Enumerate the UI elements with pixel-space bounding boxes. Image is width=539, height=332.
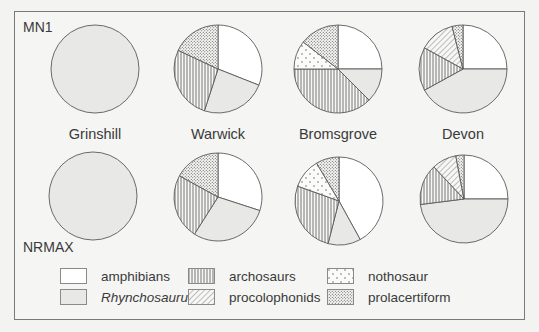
pie-mn1-warwick — [174, 25, 262, 113]
slice-amphibians — [463, 25, 507, 69]
site-label-bromsgrove: Bromsgrove — [278, 126, 398, 142]
legend-label: amphibians — [101, 269, 170, 284]
procolophonids-swatch — [188, 289, 215, 305]
legend-label: prolacertiform — [368, 290, 451, 305]
legend-item-prolacertiform: prolacertiform — [327, 289, 451, 305]
pie-mn1-devon — [419, 25, 507, 113]
row-label-nrmax: NRMAX — [23, 239, 74, 255]
legend-label: archosaurs — [229, 269, 296, 284]
legend-item-archosaurs: archosaurs — [188, 268, 296, 284]
prolacertiform-swatch — [327, 289, 354, 305]
legend-item-procolophonids: procolophonids — [188, 289, 321, 305]
slice-rhynchosaurus — [51, 25, 139, 113]
pie-nrmax-bromsgrove — [295, 157, 383, 245]
pie-nrmax-devon — [420, 155, 508, 243]
archosaurs-swatch — [188, 268, 215, 284]
legend-label: procolophonids — [229, 290, 321, 305]
pie-nrmax-warwick — [174, 153, 262, 241]
legend-item-rhynchosaurus: Rhynchosaurus — [60, 289, 195, 305]
legend-item-amphibians: amphibians — [60, 268, 170, 284]
nothosaur-swatch — [327, 268, 354, 284]
rhynchosaurus-swatch — [60, 289, 87, 305]
pie-mn1-grinshill — [51, 25, 139, 113]
site-label-devon: Devon — [403, 126, 523, 142]
pie-nrmax-grinshill — [49, 152, 137, 240]
legend-item-nothosaur: nothosaur — [327, 268, 428, 284]
slice-amphibians — [338, 25, 382, 69]
row-label-mn1: MN1 — [23, 19, 53, 35]
pie-mn1-bromsgrove — [294, 25, 382, 113]
slice-rhynchosaurus — [49, 152, 137, 240]
amphibians-swatch — [60, 268, 87, 284]
site-label-grinshill: Grinshill — [35, 126, 155, 142]
slice-amphibians — [464, 155, 508, 199]
legend-label: nothosaur — [368, 269, 428, 284]
site-label-warwick: Warwick — [158, 126, 278, 142]
legend-label: Rhynchosaurus — [101, 290, 195, 305]
slice-rhynchosaurus — [420, 199, 508, 243]
